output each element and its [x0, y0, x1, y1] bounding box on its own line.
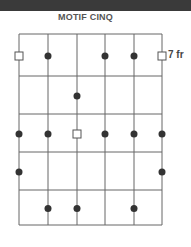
note-dot — [45, 131, 52, 138]
note-dot — [74, 205, 81, 212]
note-dot — [16, 131, 23, 138]
note-dot — [131, 205, 138, 212]
note-dot — [45, 205, 52, 212]
note-dot — [16, 169, 23, 176]
note-dot — [74, 93, 81, 100]
root-note-marker — [158, 52, 166, 60]
note-dot — [102, 131, 109, 138]
note-dot — [45, 53, 52, 60]
root-note-marker — [73, 130, 81, 138]
note-dot — [159, 169, 166, 176]
fretboard-diagram — [0, 0, 191, 247]
note-dot — [102, 53, 109, 60]
root-note-marker — [15, 52, 23, 60]
fret-position-label: 7 fr — [168, 49, 184, 60]
note-dot — [159, 131, 166, 138]
note-dot — [131, 131, 138, 138]
note-dot — [131, 53, 138, 60]
